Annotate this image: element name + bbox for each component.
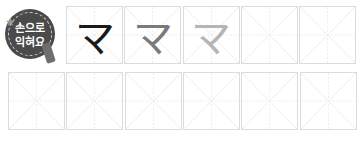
practice-glyph bbox=[184, 73, 239, 129]
practice-badge: ★ ★ 손으로 익혀요 bbox=[3, 3, 63, 65]
practice-glyph bbox=[126, 73, 181, 129]
practice-cell bbox=[300, 72, 357, 130]
practice-glyph bbox=[67, 73, 122, 129]
practice-glyph bbox=[242, 73, 297, 129]
practice-glyph bbox=[301, 73, 356, 129]
practice-cell bbox=[8, 72, 65, 130]
practice-glyph bbox=[300, 7, 355, 63]
practice-cell: マ bbox=[183, 6, 240, 64]
practice-glyph: マ bbox=[125, 7, 180, 63]
practice-glyph: マ bbox=[184, 7, 239, 63]
practice-cell bbox=[183, 72, 240, 130]
practice-glyph bbox=[242, 7, 297, 63]
practice-cell: マ bbox=[66, 6, 123, 64]
badge-text-line1: 손으로 bbox=[3, 23, 57, 35]
practice-glyph bbox=[9, 73, 64, 129]
practice-cell bbox=[125, 72, 182, 130]
star-icon: ★ bbox=[20, 8, 27, 17]
practice-cell bbox=[299, 6, 356, 64]
practice-cell: マ bbox=[124, 6, 181, 64]
practice-cell bbox=[241, 72, 298, 130]
practice-cell bbox=[241, 6, 298, 64]
practice-cell bbox=[66, 72, 123, 130]
practice-glyph: マ bbox=[67, 7, 122, 63]
